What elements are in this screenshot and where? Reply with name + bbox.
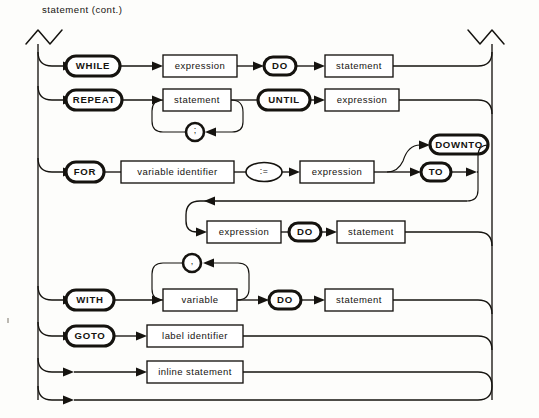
arrow-into-with-statement [314,296,325,305]
arrow-for-wraparound [204,197,215,206]
diagram-canvas: WHILE expression DO statement REPEAT [0,0,539,418]
arrow-with-loop [203,259,214,268]
terminal-repeat-label: REPEAT [73,94,115,105]
left-continuation-zigzag [26,30,62,44]
nonterminal-for-expression-1-label: expression [312,166,362,177]
arrow-into-inline-statement [136,368,147,377]
terminal-with-label: WITH [76,294,103,305]
nonterminal-with-statement-label: statement [336,294,382,305]
terminal-for-do-label: DO [297,226,313,237]
right-continuation-zigzag [468,30,504,44]
nonterminal-while-expression-label: expression [175,60,225,71]
terminal-while-do-label: DO [272,60,288,71]
branch-inline-statement: inline statement [38,358,492,386]
nonterminal-repeat-statement-label: statement [174,94,220,105]
terminal-downto-label: DOWNTO [435,139,483,150]
arrow-into-with-do [258,296,269,305]
arrow-repeat-loop [205,128,216,137]
arrow-into-for-statement [326,228,337,237]
left-entry-rail [26,30,62,400]
separator-comma-label: , [191,256,194,266]
nonterminal-goto-label-identifier-label: label identifier [162,330,228,341]
branch-for-body: expression DO statement [207,221,492,246]
nonterminal-until-expression-label: expression [337,94,387,105]
arrow-into-while-statement [314,62,325,71]
terminal-until-label: UNTIL [268,94,300,105]
right-exit-rail [468,30,504,400]
terminal-goto-label: GOTO [75,330,106,341]
railroad-diagram: statement (cont.) WHILE expression [0,0,539,418]
arrow-into-downto [419,141,430,150]
nonterminal-with-variable-label: variable [182,294,219,305]
terminal-for-label: FOR [74,166,96,177]
branch-empty-bypass [38,386,492,405]
arrow-into-for-expression-2 [196,228,207,237]
arrow-into-goto-label [136,332,147,341]
nonterminal-for-statement-label: statement [348,226,394,237]
nonterminal-for-variable-identifier-label: variable identifier [137,166,217,177]
terminal-with-do-label: DO [277,294,293,305]
branch-while: WHILE expression DO statement [38,52,492,77]
nonterminal-for-expression-2-label: expression [219,226,269,237]
arrow-into-to [410,168,421,177]
arrow-merge-to-downto [466,168,477,177]
branch-goto: GOTO label identifier [38,322,492,350]
nonterminal-inline-statement-label: inline statement [158,366,232,377]
branch-with: WITH variable , DO statement [38,254,492,314]
arrow-into-for-expression-1 [289,168,300,177]
nonterminal-while-statement-label: statement [336,60,382,71]
arrow-into-empty-branch [63,396,74,405]
terminal-to-label: TO [429,166,444,177]
arrow-into-while-do [253,62,264,71]
arrow-into-inline-branch [63,368,74,377]
terminal-while-label: WHILE [76,60,110,71]
arrow-into-while-expression [152,62,163,71]
separator-semicolon-label: ; [194,125,197,135]
branch-repeat: REPEAT statement ; UNTIL expression [38,86,492,141]
arrow-into-until-expression [314,96,325,105]
operator-assign-label: := [260,166,269,176]
